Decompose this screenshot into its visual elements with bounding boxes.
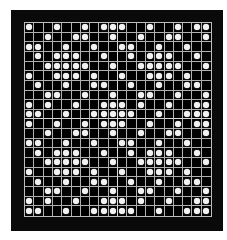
circle-icon: [194, 179, 200, 185]
circle-icon: [26, 111, 32, 117]
circle-icon: [82, 34, 88, 40]
circle-icon: [82, 24, 88, 30]
circle-icon: [82, 130, 88, 136]
grid-cell: [72, 110, 81, 120]
grid-cell: [62, 168, 71, 178]
grid-cell: [183, 52, 192, 62]
grid-cell: [72, 62, 81, 72]
grid-cell: [192, 110, 201, 120]
grid-cell: [192, 129, 201, 139]
grid-cell: [99, 91, 108, 101]
grid-cell: [137, 158, 146, 168]
grid-cell: [81, 110, 90, 120]
grid-cell: [44, 23, 53, 33]
grid-cell: [72, 197, 81, 207]
grid-cell: [165, 177, 174, 187]
grid-cell: [146, 139, 155, 149]
grid-cell: [183, 206, 192, 216]
grid-cell: [109, 129, 118, 139]
grid-cell: [165, 197, 174, 207]
grid-cell: [25, 110, 34, 120]
grid-cell: [127, 100, 136, 110]
grid-cell: [174, 148, 183, 158]
grid-cell: [53, 91, 62, 101]
circle-icon: [166, 102, 172, 108]
circle-icon: [128, 53, 134, 59]
grid-cell: [118, 110, 127, 120]
circle-icon: [156, 111, 162, 117]
grid-cell: [146, 197, 155, 207]
grid-cell: [109, 52, 118, 62]
grid-cell: [118, 158, 127, 168]
grid-cell: [202, 206, 211, 216]
circle-icon: [203, 111, 209, 117]
grid-cell: [53, 23, 62, 33]
circle-icon: [35, 150, 41, 156]
grid-cell: [53, 81, 62, 91]
grid-cell: [183, 158, 192, 168]
grid-cell: [90, 33, 99, 43]
grid-cell: [90, 81, 99, 91]
grid-cell: [183, 177, 192, 187]
circle-icon: [156, 169, 162, 175]
grid-cell: [72, 23, 81, 33]
grid-cell: [34, 52, 43, 62]
grid-cell: [72, 177, 81, 187]
grid-cell: [192, 62, 201, 72]
circle-icon: [91, 44, 97, 50]
grid-cell: [90, 168, 99, 178]
grid-cell: [127, 139, 136, 149]
grid-cell: [165, 187, 174, 197]
grid-cell: [109, 139, 118, 149]
grid-cell: [137, 110, 146, 120]
circle-icon: [119, 24, 125, 30]
circle-icon: [175, 34, 181, 40]
circle-icon: [35, 53, 41, 59]
grid-cell: [137, 177, 146, 187]
grid-cell: [192, 148, 201, 158]
grid-cell: [53, 206, 62, 216]
grid-cell: [165, 52, 174, 62]
grid-cell: [25, 206, 34, 216]
circle-icon: [73, 198, 79, 204]
circle-icon: [54, 24, 60, 30]
grid-cell: [44, 81, 53, 91]
circle-icon: [128, 140, 134, 146]
grid-cell: [183, 91, 192, 101]
grid-cell: [109, 177, 118, 187]
circle-icon: [26, 102, 32, 108]
grid-cell: [174, 23, 183, 33]
grid-cell: [90, 62, 99, 72]
circle-icon: [54, 188, 60, 194]
circle-icon: [156, 150, 162, 156]
circle-icon: [166, 159, 172, 165]
grid-cell: [174, 42, 183, 52]
grid-cell: [53, 129, 62, 139]
circle-icon: [63, 140, 69, 146]
grid-cell: [109, 158, 118, 168]
grid-cell: [53, 177, 62, 187]
grid-cell: [155, 62, 164, 72]
circle-icon: [45, 34, 51, 40]
grid-cell: [99, 197, 108, 207]
grid-cell: [72, 158, 81, 168]
grid-cell: [81, 197, 90, 207]
circle-icon: [128, 208, 134, 214]
circle-icon: [156, 179, 162, 185]
grid-cell: [72, 129, 81, 139]
circle-icon: [45, 92, 51, 98]
circle-icon: [119, 111, 125, 117]
circle-icon: [138, 130, 144, 136]
circle-icon: [194, 24, 200, 30]
grid-cell: [174, 91, 183, 101]
circle-icon: [82, 159, 88, 165]
grid-cell: [62, 23, 71, 33]
grid-cell: [155, 119, 164, 129]
grid-cell: [137, 119, 146, 129]
circle-icon: [203, 63, 209, 69]
grid-cell: [118, 139, 127, 149]
circle-icon: [35, 140, 41, 146]
grid-cell: [202, 23, 211, 33]
grid-cell: [25, 187, 34, 197]
grid-cell: [202, 52, 211, 62]
